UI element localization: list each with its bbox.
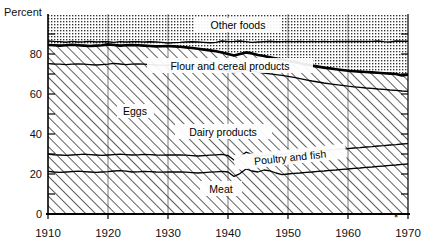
series-label-dairy-products-text: Dairy products [189,126,257,138]
series-label-dairy-products: Dairy products [175,124,272,139]
y-tick-label-0: 0 [36,208,42,220]
chart-figure: * Percent 80 60 40 20 0 1910 1920 1930 1… [0,0,431,251]
series-label-flour-and-cereal-products-text: Flour and cereal products [170,60,289,72]
final-point-marker: * [394,211,399,225]
x-tick-label-1920: 1920 [95,227,121,239]
x-tick-label-1940: 1940 [215,227,241,239]
series-label-flour-and-cereal-products: Flour and cereal products [147,58,313,73]
series-label-meat-text: Meat [209,183,232,195]
x-tick-label-1960: 1960 [335,227,361,239]
series-label-eggs-text: Eggs [123,105,147,117]
series-label-other-foods-text: Other foods [211,19,266,31]
y-tick-label-80: 80 [30,48,42,60]
y-tick-label-40: 40 [30,128,42,140]
series-label-eggs: Eggs [117,104,154,118]
y-tick-label-60: 60 [30,88,42,100]
x-tick-label-1950: 1950 [275,227,301,239]
stacked-area-chart: * Percent 80 60 40 20 0 1910 1920 1930 1… [0,0,431,251]
x-tick-label-1970: 1970 [395,227,421,239]
x-tick-label-1910: 1910 [35,227,61,239]
x-tick-label-1930: 1930 [155,227,181,239]
series-label-meat: Meat [200,181,242,196]
y-axis-title: Percent [4,6,42,18]
series-label-other-foods: Other foods [195,18,281,32]
y-tick-label-20: 20 [30,168,42,180]
